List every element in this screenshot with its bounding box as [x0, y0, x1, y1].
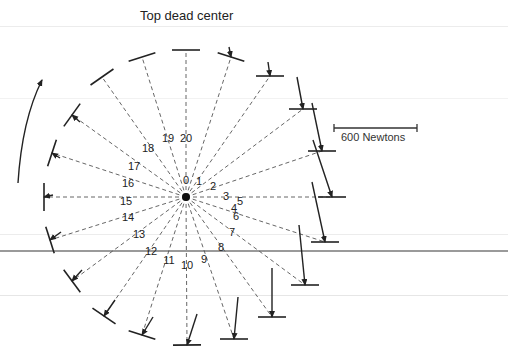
position-label-13: 13 [133, 228, 145, 240]
position-label-3: 3 [223, 190, 229, 202]
force-arrow-7 [299, 225, 305, 285]
crank-spoke-16 [52, 153, 186, 197]
crank-spoke-1 [186, 57, 231, 197]
force-arrow-3 [297, 77, 303, 109]
crank-spoke-13 [72, 197, 186, 281]
position-label-1: 1 [196, 175, 202, 187]
crank-spoke-10 [186, 197, 187, 345]
position-label-9: 9 [201, 253, 207, 265]
force-arrow-4 [312, 103, 322, 151]
position-label-18: 18 [142, 142, 154, 154]
position-label-5: 5 [237, 195, 243, 207]
position-label-8: 8 [218, 241, 224, 253]
position-label-10: 10 [181, 259, 193, 271]
force-arrow-1 [229, 47, 231, 57]
crank-spoke-6 [186, 197, 325, 242]
rotation-direction-arrow [18, 80, 42, 183]
position-label-15: 15 [120, 195, 132, 207]
position-label-17: 17 [128, 160, 140, 172]
position-label-20: 20 [180, 132, 192, 144]
position-label-6: 6 [233, 210, 239, 222]
crank-spoke-14 [50, 197, 186, 240]
position-label-14: 14 [122, 211, 134, 223]
crank-spoke-19 [142, 57, 186, 197]
crank-spoke-7 [186, 197, 305, 285]
position-label-19: 19 [162, 132, 174, 144]
crank-spoke-11 [142, 197, 186, 335]
force-arrow-9 [234, 297, 238, 339]
position-label-2: 2 [210, 180, 216, 192]
force-arrow-14 [50, 232, 61, 240]
force-arrow-12 [104, 300, 115, 316]
crank-force-diagram: 01234567891011121314151617181920 [0, 0, 508, 364]
piston-bar-19 [129, 53, 156, 61]
force-arrow-10 [187, 314, 197, 345]
force-arrow-17 [72, 115, 80, 122]
position-label-7: 7 [229, 226, 235, 238]
force-arrow-11 [142, 317, 153, 335]
scale-bar-label: 600 Newtons [341, 131, 405, 143]
position-label-11: 11 [163, 254, 174, 266]
crank-spoke-8 [186, 197, 272, 317]
force-arrow-2 [268, 62, 270, 76]
crank-spoke-4 [186, 151, 322, 197]
force-arrow-13 [72, 270, 82, 281]
position-label-16: 16 [122, 177, 134, 189]
crank-spoke-9 [186, 197, 234, 339]
crank-spoke-3 [186, 109, 303, 197]
force-arrow-6 [312, 182, 325, 242]
position-label-0: 0 [183, 174, 189, 186]
piston-bar-18 [91, 69, 114, 85]
position-label-12: 12 [145, 245, 157, 257]
force-arrow-5 [313, 140, 332, 197]
crank-center-pivot [182, 193, 190, 201]
